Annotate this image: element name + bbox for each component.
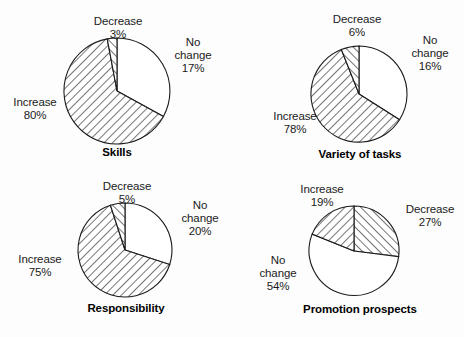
chart-title-skills: Skills [77,146,157,158]
pie-label-skills-increase: Increase 80% [5,96,65,122]
label-text: Increase [13,96,56,108]
pie-label-variety-increase: Increase 78% [265,110,325,136]
label-text: No [186,36,201,48]
pie-label-promotion-decrease: Decrease 27% [398,203,462,229]
label-text: Decrease [94,15,142,27]
label-value: 78% [265,123,325,136]
label-value: 3% [76,28,160,41]
label-text: Decrease [333,13,381,25]
chart-title-responsibility: Responsibility [78,302,174,314]
pie-skills [64,38,170,144]
pie-slice-promotion-decrease [354,206,399,257]
pie-label-responsibility-increase: Increase 75% [10,253,70,279]
label-value: 5% [85,193,169,206]
label-text: Decrease [103,180,151,192]
pie-charts-canvas [0,0,464,337]
label-value: 20% [168,225,232,238]
label-text: No [423,34,438,46]
label-value: 16% [398,60,462,73]
chart-title-promotion-prospects: Promotion prospects [295,303,425,315]
pie-label-variety-decrease: Decrease 6% [315,13,399,39]
label-text: Increase [273,110,316,122]
pie-label-promotion-no-change: No change 54% [248,254,308,293]
figure-pie-chart-panel: Decrease 3% No change 17% Increase 80% S… [0,0,464,337]
label-value: 19% [292,196,352,209]
label-text: Increase [18,253,61,265]
pie-label-variety-no-change: No change 16% [398,34,462,73]
label-value: 17% [160,62,226,75]
label-value: 27% [398,216,462,229]
label-text: No [193,199,208,211]
pie-label-responsibility-no-change: No change 20% [168,199,232,238]
label-value: 80% [5,109,65,122]
label-text-2: change [168,212,232,225]
chart-title-variety-of-tasks: Variety of tasks [300,148,420,160]
label-value: 75% [10,266,70,279]
pie-label-skills-no-change: No change 17% [160,36,226,75]
pie-label-skills-decrease: Decrease 3% [76,15,160,41]
pie-promotion-prospects [309,206,399,295]
label-text-2: change [248,267,308,280]
pie-label-responsibility-decrease: Decrease 5% [85,180,169,206]
label-text: No [271,254,286,266]
pie-responsibility [78,203,172,297]
label-text: Decrease [406,203,454,215]
label-text-2: change [160,49,226,62]
pie-variety-of-tasks [311,46,407,142]
label-value: 54% [248,280,308,293]
label-text: Increase [300,183,343,195]
pie-label-promotion-increase: Increase 19% [292,183,352,209]
label-value: 6% [315,26,399,39]
label-text-2: change [398,47,462,60]
